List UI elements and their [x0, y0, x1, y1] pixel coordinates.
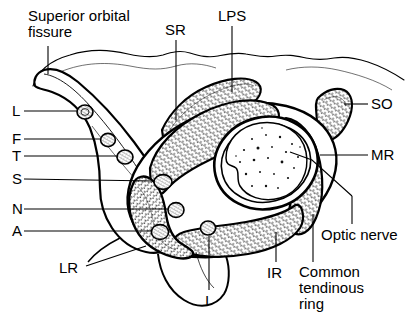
label-ir: IR	[267, 265, 282, 281]
figure-canvas: Superior orbital fissure SR LPS SO MR Op…	[0, 0, 417, 324]
label-sr: SR	[165, 22, 186, 38]
nerve-marker-L	[77, 105, 93, 119]
label-lps: LPS	[218, 8, 246, 24]
nerve-marker-T	[117, 150, 133, 164]
nerve-marker-S	[154, 175, 172, 190]
label-optic-nerve: Optic nerve	[321, 227, 398, 243]
label-a: A	[12, 223, 22, 239]
nerve-marker-F	[101, 133, 116, 146]
leader-lr	[86, 246, 146, 266]
label-l: L	[12, 103, 20, 119]
nerve-marker-I	[200, 221, 215, 235]
label-superior-orbital-fissure: Superior orbital fissure	[28, 8, 130, 40]
label-t: T	[12, 148, 21, 164]
nerve-marker-A	[151, 225, 168, 240]
label-common-tendinous-ring: Common tendinous ring	[299, 264, 364, 312]
label-mr: MR	[371, 147, 394, 163]
nerve-marker-N	[168, 203, 184, 218]
label-i: I	[205, 293, 209, 309]
label-lr: LR	[59, 260, 78, 276]
label-so: SO	[371, 96, 393, 112]
label-s: S	[12, 171, 22, 187]
label-n: N	[12, 201, 23, 217]
label-f: F	[12, 131, 21, 147]
